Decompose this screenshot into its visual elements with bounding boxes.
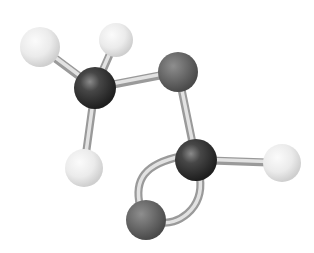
oxygen-atom-o2	[126, 200, 166, 240]
hydrogen-atom-h1	[20, 27, 60, 67]
atoms-layer	[20, 23, 301, 240]
hydrogen-atom-h4	[65, 149, 103, 187]
molecule-model	[0, 0, 314, 253]
carbon-atom-c2	[175, 139, 217, 181]
hydrogen-atom-h2	[99, 23, 133, 57]
bond-c2-o2-arc2	[160, 178, 200, 223]
hydrogen-atom-h3	[263, 144, 301, 182]
carbon-atom-c1	[74, 67, 116, 109]
oxygen-atom-o1	[158, 52, 198, 92]
